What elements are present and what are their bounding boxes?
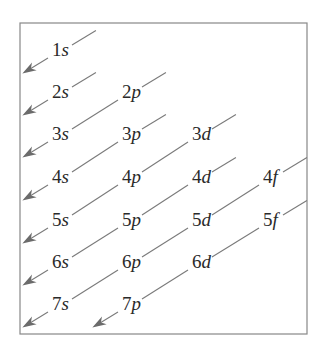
orbital-label-3d: 3d [192, 123, 212, 144]
orbital-label-7p: 7p [122, 293, 141, 314]
orbital-label-2s: 2s [52, 81, 69, 102]
arrowhead-icon [22, 189, 36, 200]
orbital-label-1s: 1s [52, 39, 69, 60]
arrowhead-icon [22, 232, 36, 243]
orbital-label-2p: 2p [122, 81, 141, 102]
orbital-label-5p: 5p [122, 209, 141, 230]
orbital-label-6d: 6d [192, 251, 212, 272]
arrowheads [22, 62, 106, 327]
aufbau-diagram: 1s2s2p3s3p3d4s4p4d4f5s5p5d5f6s6p6d7s7p [0, 0, 326, 351]
arrowhead-icon [22, 146, 36, 157]
orbital-label-4p: 4p [122, 166, 141, 187]
arrowhead-icon [22, 316, 36, 327]
orbital-label-6s: 6s [52, 251, 69, 272]
orbital-label-5s: 5s [52, 209, 69, 230]
orbital-labels: 1s2s2p3s3p3d4s4p4d4f5s5p5d5f6s6p6d7s7p [52, 39, 281, 314]
orbital-label-6p: 6p [122, 251, 141, 272]
arrowhead-icon [22, 62, 36, 73]
arrowhead-icon [22, 274, 36, 285]
orbital-label-4f: 4f [263, 166, 281, 187]
orbital-label-7s: 7s [52, 293, 69, 314]
orbital-label-5d: 5d [192, 209, 212, 230]
orbital-label-4d: 4d [192, 166, 212, 187]
arrowhead-icon [22, 104, 36, 115]
arrowhead-icon [92, 316, 106, 327]
orbital-label-4s: 4s [52, 166, 69, 187]
orbital-label-5f: 5f [263, 209, 281, 230]
orbital-label-3s: 3s [52, 123, 69, 144]
orbital-label-3p: 3p [122, 123, 141, 144]
